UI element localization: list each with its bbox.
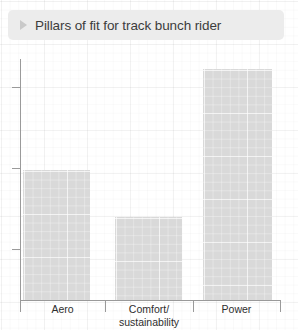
x-axis-label-aero: Aero bbox=[20, 303, 105, 316]
x-axis bbox=[20, 300, 281, 301]
bar-chart: Aero Comfort/ sustainability Power bbox=[0, 0, 298, 330]
x-axis-label-power: Power bbox=[193, 303, 280, 316]
x-axis-label-power-line1: Power bbox=[193, 303, 280, 316]
y-axis bbox=[20, 59, 21, 301]
bar-aero[interactable] bbox=[23, 170, 90, 300]
x-axis-divider-4 bbox=[280, 300, 281, 312]
x-axis-label-comfort-sustainability: Comfort/ sustainability bbox=[105, 303, 193, 329]
y-axis-tick-1 bbox=[12, 87, 21, 88]
y-axis-tick-2 bbox=[12, 168, 21, 169]
y-axis-tick-3 bbox=[12, 249, 21, 250]
x-axis-label-comfort-line1: Comfort/ bbox=[105, 303, 193, 316]
bar-comfort-sustainability[interactable] bbox=[115, 217, 182, 300]
bar-power[interactable] bbox=[203, 69, 272, 300]
x-axis-label-comfort-line2: sustainability bbox=[105, 316, 193, 329]
x-axis-label-aero-line1: Aero bbox=[20, 303, 105, 316]
